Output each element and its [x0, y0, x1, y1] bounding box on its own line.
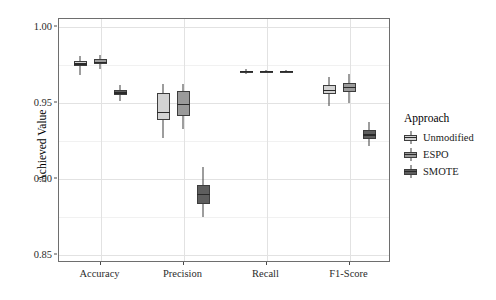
gridline-horizontal [59, 255, 389, 256]
legend-label: ESPO [423, 149, 449, 160]
legend-item-unmodified[interactable]: Unmodified [404, 130, 496, 145]
legend-key-median [404, 171, 417, 172]
boxplot-box [157, 19, 169, 262]
x-tick-mark [183, 262, 184, 265]
boxplot-box [343, 19, 355, 262]
median-line [323, 90, 335, 91]
x-tick-label: Precision [163, 268, 202, 279]
median-line [177, 104, 189, 105]
x-tick-mark [100, 262, 101, 265]
legend-key-median [404, 154, 417, 155]
legend-key-icon [404, 165, 417, 178]
boxplot-chart: Achieved Value 1.000.950.900.85 Accuracy… [0, 0, 496, 300]
median-line [197, 194, 209, 195]
legend-item-smote[interactable]: SMOTE [404, 164, 496, 179]
y-tick-label: 0.90 [18, 173, 52, 184]
legend-entries: UnmodifiedESPOSMOTE [404, 130, 496, 179]
x-tick-label: F1-Score [329, 268, 368, 279]
boxplot-box [240, 19, 252, 262]
x-tick-mark [266, 262, 267, 265]
median-line [114, 92, 126, 93]
y-tick-mark [54, 178, 57, 179]
boxplot-box [197, 19, 209, 262]
x-tick-mark [349, 262, 350, 265]
boxplot-box [323, 19, 335, 262]
gridline-horizontal-minor [59, 217, 389, 218]
plot-panel [58, 18, 390, 262]
boxplot-box [114, 19, 126, 262]
legend-key-icon [404, 148, 417, 161]
y-tick-label: 0.95 [18, 96, 52, 107]
y-tick-mark [54, 25, 57, 26]
x-tick-label: Recall [252, 268, 279, 279]
boxplot-box [280, 19, 292, 262]
boxplot-box [94, 19, 106, 262]
median-line [280, 71, 292, 72]
median-line [157, 112, 169, 113]
legend-title: Approach [404, 112, 496, 124]
median-line [343, 87, 355, 88]
median-line [240, 71, 252, 72]
y-tick-label: 1.00 [18, 20, 52, 31]
gridline-horizontal-minor [59, 141, 389, 142]
legend-key-median [404, 137, 417, 138]
legend-label: Unmodified [423, 132, 474, 143]
boxplot-box [363, 19, 375, 262]
boxplot-box [260, 19, 272, 262]
legend: Approach UnmodifiedESPOSMOTE [404, 112, 496, 181]
legend-label: SMOTE [423, 166, 459, 177]
gridline-horizontal-minor [59, 65, 389, 66]
gridline-horizontal [59, 179, 389, 180]
y-tick-label: 0.85 [18, 249, 52, 260]
gridline-horizontal [59, 27, 389, 28]
median-line [260, 71, 272, 72]
boxplot-box [74, 19, 86, 262]
x-tick-label: Accuracy [79, 268, 119, 279]
median-line [363, 134, 375, 135]
median-line [94, 62, 106, 63]
box-iqr [157, 93, 169, 120]
y-tick-mark [54, 101, 57, 102]
legend-item-espo[interactable]: ESPO [404, 147, 496, 162]
y-tick-mark [54, 254, 57, 255]
median-line [74, 63, 86, 64]
boxplot-box [177, 19, 189, 262]
y-axis-title: Achieved Value [36, 66, 48, 226]
gridline-horizontal [59, 103, 389, 104]
legend-key-icon [404, 131, 417, 144]
